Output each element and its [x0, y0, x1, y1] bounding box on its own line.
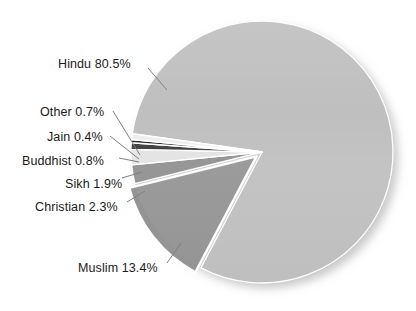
pie-label-sikh: Sikh 1.9% — [65, 178, 122, 191]
pie-label-jain: Jain 0.4% — [47, 131, 103, 144]
pie-label-muslim: Muslim 13.4% — [78, 262, 158, 275]
pie-label-other: Other 0.7% — [40, 106, 104, 119]
pie-chart: Hindu 80.5%Muslim 13.4%Christian 2.3%Sik… — [0, 0, 416, 311]
pie-label-christian: Christian 2.3% — [35, 201, 118, 214]
pie-label-hindu: Hindu 80.5% — [58, 58, 131, 71]
pie-label-buddhist: Buddhist 0.8% — [22, 155, 104, 168]
pie-slices — [129, 21, 393, 283]
